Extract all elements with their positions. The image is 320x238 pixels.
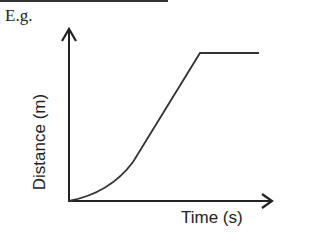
distance-time-line (69, 53, 259, 201)
x-axis (68, 194, 272, 208)
x-axis-label: Time (s) (181, 208, 243, 228)
y-axis (62, 29, 76, 201)
y-axis-label: Distance (m) (30, 94, 50, 190)
